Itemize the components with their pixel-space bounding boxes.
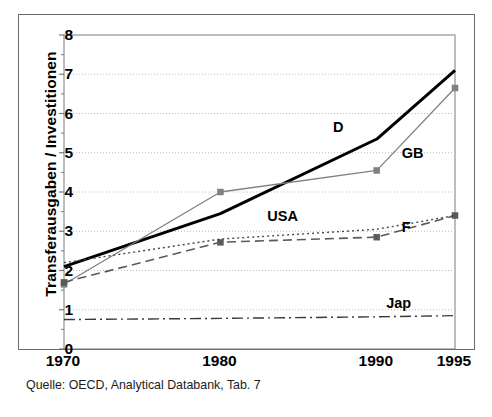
series-marker-usa [374,234,380,240]
series-marker-usa [452,213,458,219]
series-marker-usa [217,239,223,245]
x-tick-1990: 1990 [346,352,406,370]
series-label-d: D [333,119,343,135]
y-tick-4: 4 [47,184,73,200]
y-tick-5: 5 [47,145,73,161]
figure-frame: Transferausgaben / Investitionen 8 7 6 5… [18,14,475,350]
y-tick-6: 6 [47,106,73,122]
x-tick-1980: 1980 [189,352,249,370]
y-tick-1: 1 [47,302,73,318]
x-tick-1970: 1970 [33,352,93,370]
y-tick-7: 7 [47,66,73,82]
chart-figure: Transferausgaben / Investitionen 8 7 6 5… [0,0,492,417]
y-tick-2: 2 [47,263,73,279]
y-tick-8: 8 [47,27,73,43]
series-marker-gb [217,189,223,195]
y-axis-tick-labels: 8 7 6 5 4 3 2 1 0 [47,15,73,349]
series-marker-gb [374,167,380,173]
series-label-f: F [402,219,411,235]
x-axis-tick-labels: 1970 1980 1990 1995 [0,352,492,374]
series-label-usa: USA [267,208,298,224]
series-marker-gb [452,85,458,91]
series-label-jap: Jap [386,295,411,311]
x-tick-1995: 1995 [424,352,484,370]
y-tick-3: 3 [47,223,73,239]
source-note: Quelle: OECD, Analytical Databank, Tab. … [26,378,261,392]
series-label-gb: GB [402,145,424,161]
